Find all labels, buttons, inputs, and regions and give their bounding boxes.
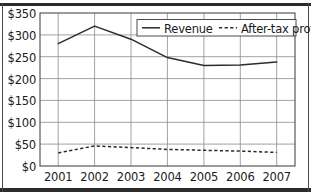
y-axis-tick-300: $300 [0, 29, 36, 43]
x-axis-tick-2004: 2004 [147, 170, 187, 184]
x-axis-tick-2002: 2002 [75, 170, 115, 184]
y-axis-tick-250: $250 [0, 51, 36, 65]
x-axis-tick-2007: 2007 [257, 170, 297, 184]
x-axis-tick-2003: 2003 [111, 170, 151, 184]
legend-label-after-tax-profit: After-tax profit [241, 22, 311, 36]
y-axis-tick-350: $350 [0, 7, 36, 21]
x-axis-tick-2001: 2001 [38, 170, 78, 184]
y-axis-tick-100: $100 [0, 116, 36, 130]
x-axis-tick-2006: 2006 [220, 170, 260, 184]
y-axis-tick-150: $150 [0, 94, 36, 108]
x-axis-tick-2005: 2005 [184, 170, 224, 184]
y-axis-tick-50: $50 [0, 138, 36, 152]
y-axis-tick-200: $200 [0, 73, 36, 87]
y-axis-tick-0: $0 [0, 160, 36, 174]
chart-figure: $350 $300 $250 $200 $150 $100 $50 $0 200… [0, 0, 311, 196]
legend-label-revenue: Revenue [164, 22, 213, 36]
